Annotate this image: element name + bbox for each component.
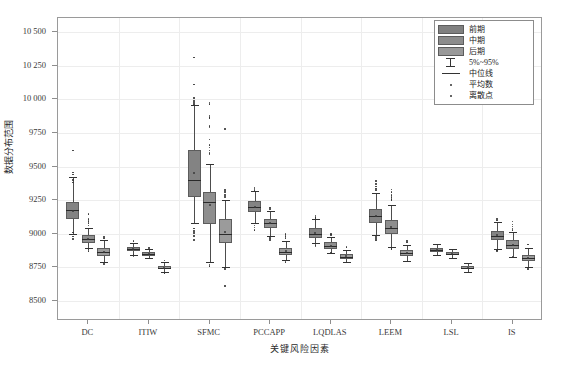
outlier-point [209, 265, 211, 267]
outlier-point [193, 232, 195, 234]
outlier-point [224, 268, 226, 270]
median-line [203, 202, 216, 203]
outlier-point [346, 262, 348, 264]
legend-item: 后期 [438, 46, 529, 57]
outlier-point [375, 189, 377, 191]
outlier-point [527, 268, 529, 270]
outlier-point [193, 239, 195, 241]
dot-icon [438, 91, 464, 100]
chart-root: 85008750900092509500975010 00010 25010 5… [0, 0, 563, 378]
legend-item: 平均数 [438, 79, 529, 90]
whisker-cap [145, 249, 153, 250]
outlier-point [224, 128, 226, 130]
outlier-point [391, 189, 393, 191]
outlier-point [209, 103, 211, 105]
whisker-cap [509, 257, 517, 258]
x-tick-label: ITIW [138, 327, 157, 337]
outlier-point [375, 180, 377, 182]
outlier-point [269, 239, 271, 241]
whisker-cap [388, 205, 396, 206]
outlier-point [391, 248, 393, 250]
x-tick-mark [269, 320, 270, 324]
outlier-point [512, 221, 514, 223]
x-axis-ticks: DCITIWSFMCPCCAPPLQDLASLEEMLSLIS [57, 322, 542, 338]
outlier-point [209, 144, 211, 146]
box-中期-SFMC [203, 192, 216, 224]
legend-label: 前期 [469, 25, 485, 34]
legend-label: 5%~95% [469, 58, 499, 67]
outlier-point [133, 240, 135, 242]
mean-marker [451, 253, 453, 255]
outlier-point [254, 229, 256, 231]
whisker-cap [69, 177, 77, 178]
legend-swatch-icon [438, 36, 464, 45]
outlier-point [193, 97, 195, 99]
mean-marker [467, 267, 469, 269]
y-axis-title: 数据分布范围 [2, 87, 15, 207]
x-tick-mark [390, 320, 391, 324]
x-tick-label: SFMC [197, 327, 220, 337]
median-line-icon [438, 69, 464, 78]
outlier-point [209, 117, 211, 119]
median-line [219, 234, 232, 235]
whisker-cap [100, 240, 108, 241]
whisker-cap [251, 223, 259, 224]
outlier-point [224, 191, 226, 193]
outlier-point [224, 285, 226, 287]
y-tick-label: 10 500 [23, 26, 46, 36]
dot-icon [438, 80, 464, 89]
outlier-point [72, 150, 74, 152]
outlier-point [193, 235, 195, 237]
outlier-point [512, 226, 514, 228]
median-line [188, 180, 201, 181]
x-tick-mark [148, 320, 149, 324]
x-tick-mark [451, 320, 452, 324]
outlier-point [148, 247, 150, 249]
legend-label: 平均数 [469, 80, 493, 89]
outlier-point [315, 217, 317, 219]
mean-marker [193, 172, 195, 174]
legend-label: 中位线 [469, 69, 493, 78]
outlier-point [209, 150, 211, 152]
outlier-point [133, 256, 135, 258]
whisker-cap [464, 272, 472, 273]
outlier-point [72, 232, 74, 234]
outlier-point [512, 224, 514, 226]
outlier-point [148, 258, 150, 260]
x-tick-label: LQDLAS [313, 327, 347, 337]
x-tick-mark [209, 320, 210, 324]
outlier-point [406, 242, 408, 244]
whisker-cap [343, 250, 351, 251]
y-tick-label: 10 250 [23, 60, 46, 70]
x-tick-mark [512, 320, 513, 324]
box-前期-SFMC [188, 150, 201, 196]
whisker-cap [161, 262, 169, 263]
outlier-point [164, 272, 166, 274]
outlier-point [209, 127, 211, 129]
whisker-cap [327, 237, 335, 238]
outlier-point [88, 213, 90, 215]
outlier-point [88, 250, 90, 252]
outlier-point [391, 191, 393, 193]
x-tick-label: IS [508, 327, 516, 337]
mean-marker [209, 204, 211, 206]
outlier-point [88, 225, 90, 227]
outlier-point [375, 240, 377, 242]
y-tick-label: 9000 [29, 228, 46, 238]
whisker-cap [130, 243, 138, 244]
mean-marker [254, 206, 256, 208]
legend-item: 5%~95% [438, 57, 529, 68]
whisker-cap [206, 262, 214, 263]
outlier-point [193, 228, 195, 230]
x-tick-label: DC [81, 327, 93, 337]
legend-label: 离散点 [469, 91, 493, 100]
mean-marker [148, 253, 150, 255]
whisker-cap [312, 219, 320, 220]
y-tick-label: 9250 [29, 194, 46, 204]
whisker-cap [191, 223, 199, 224]
whisker-cap [206, 164, 214, 165]
whisker-cap [282, 260, 290, 261]
outlier-point [209, 147, 211, 149]
x-tick-label: PCCAPP [253, 327, 285, 337]
outlier-point [285, 261, 287, 263]
